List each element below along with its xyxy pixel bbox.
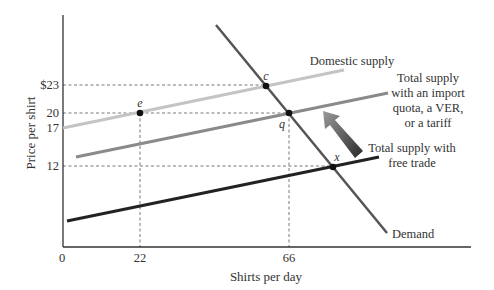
quota-label-line2: with an import: [391, 86, 465, 100]
quota-supply-line: [76, 93, 388, 157]
point-x-label: x: [333, 150, 340, 164]
domestic-supply-label: Domestic supply: [310, 54, 395, 68]
y-axis-title: Price per shirt: [23, 96, 38, 169]
supply-demand-chart: c e q x $23 20 17 12 0 22 66 Shirts per …: [0, 0, 494, 290]
x-tick-22: 22: [134, 251, 147, 265]
point-c-label: c: [263, 69, 269, 83]
y-tick-12: 12: [47, 159, 60, 173]
quota-label-line3: quota, a VER,: [393, 101, 464, 115]
quota-label-line4: or a tariff: [405, 116, 453, 130]
point-q: [286, 110, 293, 117]
x-tick-0: 0: [59, 251, 65, 265]
free-trade-label-line1: Total supply with: [368, 141, 456, 155]
x-axis-title: Shirts per day: [230, 269, 303, 284]
y-tick-23: $23: [40, 78, 59, 92]
quota-label-line1: Total supply: [397, 71, 460, 85]
demand-label: Demand: [392, 227, 435, 241]
point-x: [330, 164, 337, 171]
free-trade-supply-label: Total supply with free trade: [368, 141, 456, 170]
point-e-label: e: [137, 96, 143, 110]
y-tick-17: 17: [47, 121, 60, 135]
point-c: [263, 83, 270, 90]
point-e: [137, 110, 144, 117]
x-tick-66: 66: [283, 251, 296, 265]
y-tick-20: 20: [47, 106, 60, 120]
guide-lines: [63, 85, 333, 247]
domestic-supply-line: [63, 70, 344, 128]
shift-arrow-icon: [323, 111, 363, 158]
free-trade-label-line2: free trade: [388, 156, 436, 170]
quota-supply-label: Total supply with an import quota, a VER…: [391, 71, 465, 130]
point-q-label: q: [279, 117, 285, 131]
